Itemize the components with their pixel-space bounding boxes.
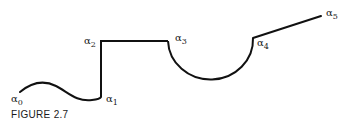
label-alpha-1: α1 — [106, 94, 118, 107]
label-alpha-4: α4 — [257, 38, 269, 51]
piecewise-curve-diagram — [0, 0, 348, 122]
figure-caption: FIGURE 2.7 — [11, 109, 68, 120]
label-alpha-5: α5 — [326, 8, 338, 21]
curve-a0-a1 — [20, 83, 101, 101]
label-alpha-2: α2 — [84, 36, 96, 49]
label-alpha-0: α0 — [11, 94, 23, 107]
line-a4-a5 — [253, 16, 321, 38]
label-alpha-3: α3 — [175, 33, 187, 46]
line-a1-a2-a3 — [101, 41, 168, 97]
